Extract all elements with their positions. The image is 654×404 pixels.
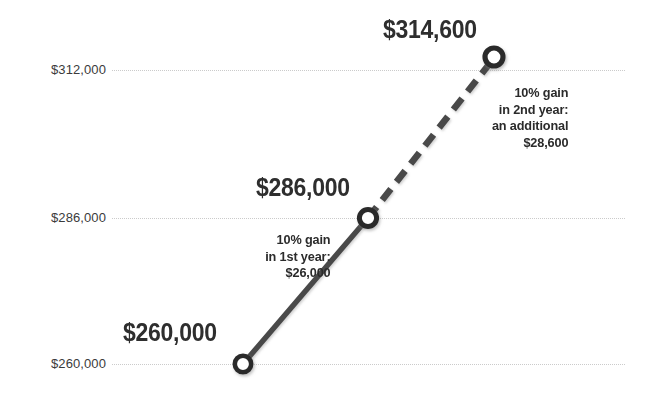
annotation-second-year-line-3: an additional — [492, 118, 568, 135]
annotation-first-year-line-1: 10% gain — [265, 232, 330, 249]
annotation-first-year-line-2: in 1st year: — [265, 249, 330, 266]
annotation-second-year-line-2: in 2nd year: — [492, 102, 568, 119]
annotation-first-year-line-3: $26,000 — [265, 265, 330, 282]
annotation-second-year-line-1: 10% gain — [492, 85, 568, 102]
line-segment-dashed-second-year — [368, 58, 494, 218]
data-label-286000: $286,000 — [256, 174, 350, 201]
annotation-first-year: 10% gain in 1st year: $26,000 — [265, 232, 330, 282]
compound-growth-chart: $312,000 $286,000 $260,000 $260,000 $286… — [0, 0, 654, 404]
plot-area — [0, 0, 654, 404]
data-point-marker-286000[interactable] — [359, 209, 376, 226]
data-point-marker-314600[interactable] — [485, 48, 503, 66]
annotation-second-year-line-4: $28,600 — [492, 135, 568, 152]
data-label-260000: $260,000 — [123, 319, 217, 346]
data-label-314600: $314,600 — [383, 16, 477, 43]
data-point-marker-260000[interactable] — [235, 356, 251, 372]
annotation-second-year: 10% gain in 2nd year: an additional $28,… — [492, 85, 568, 151]
